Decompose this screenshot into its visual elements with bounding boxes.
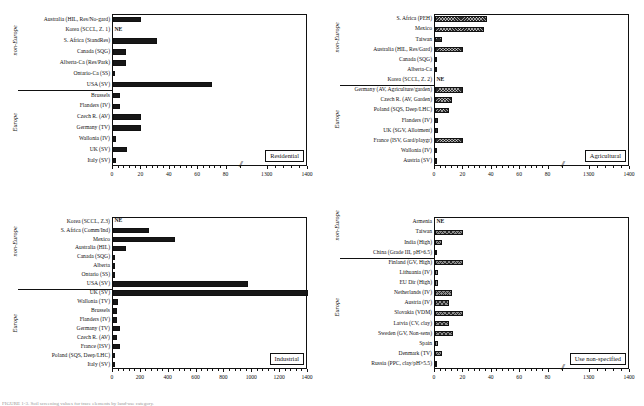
axis-tick xyxy=(519,166,520,169)
panel-agricultural: S. Africa (PEH)MexicoTaiwanAustralia (HI… xyxy=(322,0,644,203)
axis-tick-minor xyxy=(209,166,210,168)
group-label-europe: Europe xyxy=(330,307,342,319)
axis-tick-minor xyxy=(129,166,130,168)
figure-panel-grid: Australia (HIL, Res/No-gard)Korea (SCCL,… xyxy=(0,0,644,406)
bar xyxy=(113,299,119,304)
axis-tick-minor xyxy=(445,166,446,168)
category-label: Korea (SCCL, Z. 1) xyxy=(65,26,110,35)
bar xyxy=(113,60,126,65)
axis-tick-label: 60 xyxy=(516,374,522,380)
category-label: Denmark (TV) xyxy=(399,349,432,358)
axis-tick-label: 0 xyxy=(111,171,114,177)
bar xyxy=(435,351,442,356)
group-separator xyxy=(340,85,434,86)
axis-tick-minor xyxy=(542,166,543,168)
axis-tick xyxy=(491,369,492,372)
panel-use-non-specified: ArmeniaTaiwanIndia (High)China (Grade II… xyxy=(322,203,644,406)
axis-tick-minor xyxy=(191,166,192,168)
category-label: Mexico xyxy=(415,25,432,34)
panel-title-box: Use non-specified xyxy=(570,353,626,365)
category-label: Wallonia (TV) xyxy=(77,297,110,306)
axis-break-glyph: // xyxy=(239,161,241,169)
group-label-non-europe: non-Europe xyxy=(8,46,20,58)
category-label: S. Africa (PEH) xyxy=(396,15,432,24)
axis-tick-minor xyxy=(513,166,514,168)
bar xyxy=(113,136,117,141)
bar xyxy=(113,237,176,242)
axis-tick-label: 20 xyxy=(460,171,466,177)
group-label-europe: Europe xyxy=(330,119,342,131)
axis-tick-minor xyxy=(190,369,191,371)
category-label: Lithuania (IV) xyxy=(400,268,432,277)
bar xyxy=(113,362,115,367)
category-label: Australia (HIL) xyxy=(75,244,110,253)
axis-tick-minor xyxy=(145,369,146,371)
axis-tick-minor xyxy=(508,166,509,168)
bar xyxy=(113,38,157,43)
axis-tick-minor xyxy=(179,369,180,371)
axis-tick-minor xyxy=(508,369,509,371)
axis-tick-minor xyxy=(218,369,219,371)
axis-tick-minor xyxy=(474,369,475,371)
axis-tick xyxy=(462,369,463,372)
axis-tick-minor xyxy=(496,369,497,371)
category-label: Germany (TV) xyxy=(77,324,110,333)
axis-tick-label: 1400 xyxy=(301,171,312,177)
axis-tick-minor xyxy=(525,166,526,168)
bar xyxy=(113,104,120,109)
category-label: Armenia xyxy=(412,218,432,227)
axis-tick-minor xyxy=(240,369,241,371)
axis-tick-minor xyxy=(496,166,497,168)
axis-tick-minor xyxy=(621,166,622,168)
group-label-non-europe: non-Europe xyxy=(8,247,20,259)
axis-tick-minor xyxy=(186,166,187,168)
axis-tick-minor xyxy=(485,369,486,371)
plot-area xyxy=(434,14,629,166)
category-label: France (ISV) xyxy=(81,342,110,351)
axis-tick-label: 80 xyxy=(545,171,551,177)
axis-tick xyxy=(307,166,308,169)
axis-tick-label: 200 xyxy=(136,374,144,380)
bar xyxy=(435,331,453,336)
axis-tick xyxy=(548,166,549,169)
category-label: Flanders (IV) xyxy=(80,315,110,324)
axis-tick-minor xyxy=(285,369,286,371)
axis-tick-label: 1300 xyxy=(583,374,594,380)
axis-tick-minor xyxy=(157,166,158,168)
category-label: S. Africa (StandRes) xyxy=(64,37,110,46)
axis-tick-label: 800 xyxy=(219,374,227,380)
axis-tick-minor xyxy=(235,369,236,371)
axis-tick-minor xyxy=(440,369,441,371)
category-label: Spain xyxy=(419,339,432,348)
category-label: UK (SGV, Allotment) xyxy=(383,126,432,135)
axis-tick-minor xyxy=(174,166,175,168)
x-axis: 02040608013001400 xyxy=(434,166,629,182)
group-label-non-europe: non-Europe xyxy=(330,43,342,55)
bar xyxy=(113,255,115,260)
axis-tick-label: 20 xyxy=(138,171,144,177)
category-label: EU Dir (High) xyxy=(399,278,432,287)
category-label: Alberta-Ca (Res/Park) xyxy=(60,58,110,67)
axis-tick-minor xyxy=(479,369,480,371)
group-label-non-europe: non-Europe xyxy=(330,231,342,243)
axis-tick-minor xyxy=(123,369,124,371)
not-evaluated-marker: NE xyxy=(437,77,445,83)
axis-tick-minor xyxy=(163,166,164,168)
axis-tick xyxy=(589,369,590,372)
axis-tick xyxy=(491,166,492,169)
axis-tick-minor xyxy=(440,166,441,168)
axis-tick xyxy=(629,166,630,169)
axis-tick-minor xyxy=(513,369,514,371)
category-label: Austria (SV) xyxy=(403,156,432,165)
axis-tick-minor xyxy=(474,166,475,168)
category-label: Ontario (SS) xyxy=(82,271,110,280)
bar xyxy=(435,311,463,316)
bar xyxy=(435,260,463,265)
axis-tick-label: 20 xyxy=(460,374,466,380)
axis-tick-minor xyxy=(613,369,614,371)
axis-tick-minor xyxy=(162,369,163,371)
axis-tick-minor xyxy=(301,369,302,371)
axis-tick-minor xyxy=(134,369,135,371)
axis-tick xyxy=(279,369,280,372)
bar xyxy=(435,158,437,163)
